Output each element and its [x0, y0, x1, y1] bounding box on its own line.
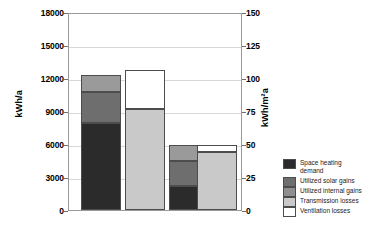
legend-item[interactable]: Ventilation losses: [283, 207, 383, 217]
y-axis-tick-mark-right: [242, 112, 246, 113]
legend-item[interactable]: Space heating demand: [283, 159, 383, 177]
y-axis-tick-label-right: 150: [246, 9, 276, 18]
y-axis-tick-label-left: 15000: [24, 42, 64, 51]
legend-swatch: [283, 177, 296, 187]
y-axis-tick-mark-right: [242, 145, 246, 146]
bar[interactable]: [197, 12, 237, 210]
y-axis-tick-label-right: 75: [246, 108, 276, 117]
legend-swatch: [283, 187, 296, 197]
bar[interactable]: [81, 12, 121, 210]
y-axis-tick-label-left: 18000: [24, 9, 64, 18]
legend-swatch: [283, 207, 296, 217]
y-axis-tick-label-right: 0: [246, 207, 276, 216]
y-axis-tick-label-right: 25: [246, 174, 276, 183]
y-axis-tick-label-left: 6000: [24, 141, 64, 150]
y-axis-tick-mark-right: [242, 211, 246, 212]
y-axis-tick-label-left: 9000: [24, 108, 64, 117]
legend-item[interactable]: Transmission losses: [283, 197, 383, 207]
bar[interactable]: [125, 12, 165, 210]
legend-label: Utilized internal gains: [300, 187, 362, 195]
legend-label: Space heating demand: [300, 159, 342, 175]
y-axis-tick-label-left: 12000: [24, 75, 64, 84]
y-axis-tick-label-left: 0: [24, 207, 64, 216]
y-axis-tick-label-right: 100: [246, 75, 276, 84]
legend-label: Utilized solar gains: [300, 177, 355, 185]
legend-item[interactable]: Utilized internal gains: [283, 187, 383, 197]
bar-segment[interactable]: [197, 152, 237, 210]
y-axis-tick-label-right: 50: [246, 141, 276, 150]
y-axis-title-left: kWh/a: [14, 90, 24, 118]
y-axis-tick-label-right: 125: [246, 42, 276, 51]
legend-label: Transmission losses: [300, 197, 359, 205]
bar-segment[interactable]: [81, 123, 121, 210]
legend: Space heating demandUtilized solar gains…: [283, 159, 383, 217]
legend-swatch: [283, 159, 296, 169]
legend-item[interactable]: Utilized solar gains: [283, 177, 383, 187]
y-axis-tick-mark-left: [64, 211, 68, 212]
chart-canvas: kWh/a kWh/m²a 03000600090001200015000180…: [0, 0, 385, 242]
legend-label: Ventilation losses: [300, 207, 350, 215]
y-axis-tick-label-left: 3000: [24, 174, 64, 183]
plot-area: [68, 13, 242, 211]
y-axis-tick-mark-right: [242, 79, 246, 80]
bar-segment[interactable]: [81, 92, 121, 123]
bar-segment[interactable]: [197, 145, 237, 153]
y-axis-tick-mark-right: [242, 178, 246, 179]
y-axis-tick-mark-right: [242, 46, 246, 47]
legend-swatch: [283, 197, 296, 207]
bar-segment[interactable]: [125, 109, 165, 210]
y-axis-tick-mark-right: [242, 13, 246, 14]
bar-segment[interactable]: [81, 75, 121, 93]
bar-segment[interactable]: [125, 70, 165, 109]
